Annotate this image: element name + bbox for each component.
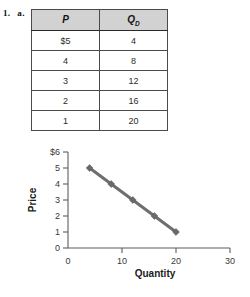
y-tick-label: $6 [50,147,60,157]
column-header-quantity-text: Q [127,14,135,25]
table-row: 3 12 [32,71,168,91]
cell-quantity: 12 [100,71,168,91]
x-axis-label: Quantity [135,268,176,279]
demand-curve-chart: 012345$6 0102030 Price Quantity [0,140,250,297]
x-tick-label: 0 [65,256,70,266]
cell-quantity: 8 [100,51,168,71]
x-tick-label: 20 [171,256,181,266]
x-axis-ticks: 0102030 [65,248,235,266]
demand-schedule-table: P QD $5 4 4 8 3 12 2 16 1 20 [31,9,168,131]
column-header-quantity: QD [100,10,168,31]
y-tick-label: 0 [55,243,60,253]
problem-part: a. [17,8,24,18]
y-tick-label: 5 [55,163,60,173]
chart-axes [68,152,230,248]
cell-price: 2 [32,91,100,111]
page-root: 1.a. P QD $5 4 4 8 3 12 2 16 [0,0,250,297]
problem-label: 1.a. [3,8,25,18]
column-header-quantity-subscript: D [135,20,140,27]
y-axis-ticks: 012345$6 [50,147,68,253]
y-tick-label: 3 [55,195,60,205]
cell-price: 3 [32,71,100,91]
y-tick-label: 1 [55,227,60,237]
table-row: 1 20 [32,111,168,131]
table-header-row: P QD [32,10,168,31]
cell-price: 1 [32,111,100,131]
table-row: $5 4 [32,31,168,51]
y-axis-label: Price [27,187,38,212]
cell-quantity: 16 [100,91,168,111]
table-body: $5 4 4 8 3 12 2 16 1 20 [32,31,168,131]
table-row: 4 8 [32,51,168,71]
column-header-price-text: P [62,14,69,25]
x-tick-label: 10 [117,256,127,266]
y-tick-label: 4 [55,179,60,189]
cell-quantity: 4 [100,31,168,51]
column-header-price: P [32,10,100,31]
table-row: 2 16 [32,91,168,111]
cell-price: 4 [32,51,100,71]
cell-quantity: 20 [100,111,168,131]
y-tick-label: 2 [55,211,60,221]
x-tick-label: 30 [225,256,235,266]
chart-svg: 012345$6 0102030 Price Quantity [0,140,250,297]
problem-number: 1. [3,8,10,18]
table-header: P QD [32,10,168,31]
cell-price: $5 [32,31,100,51]
